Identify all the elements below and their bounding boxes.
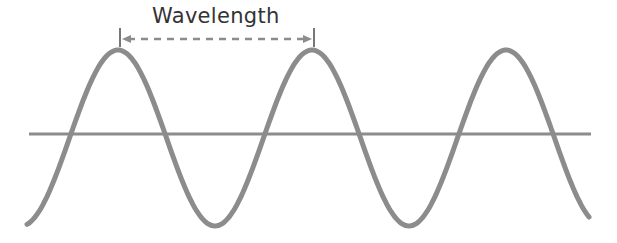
arrowhead-left-icon (122, 35, 131, 43)
wave-diagram (0, 0, 617, 243)
sine-wave (27, 50, 589, 226)
wavelength-label: Wavelength (152, 4, 280, 28)
arrowhead-right-icon (303, 35, 312, 43)
